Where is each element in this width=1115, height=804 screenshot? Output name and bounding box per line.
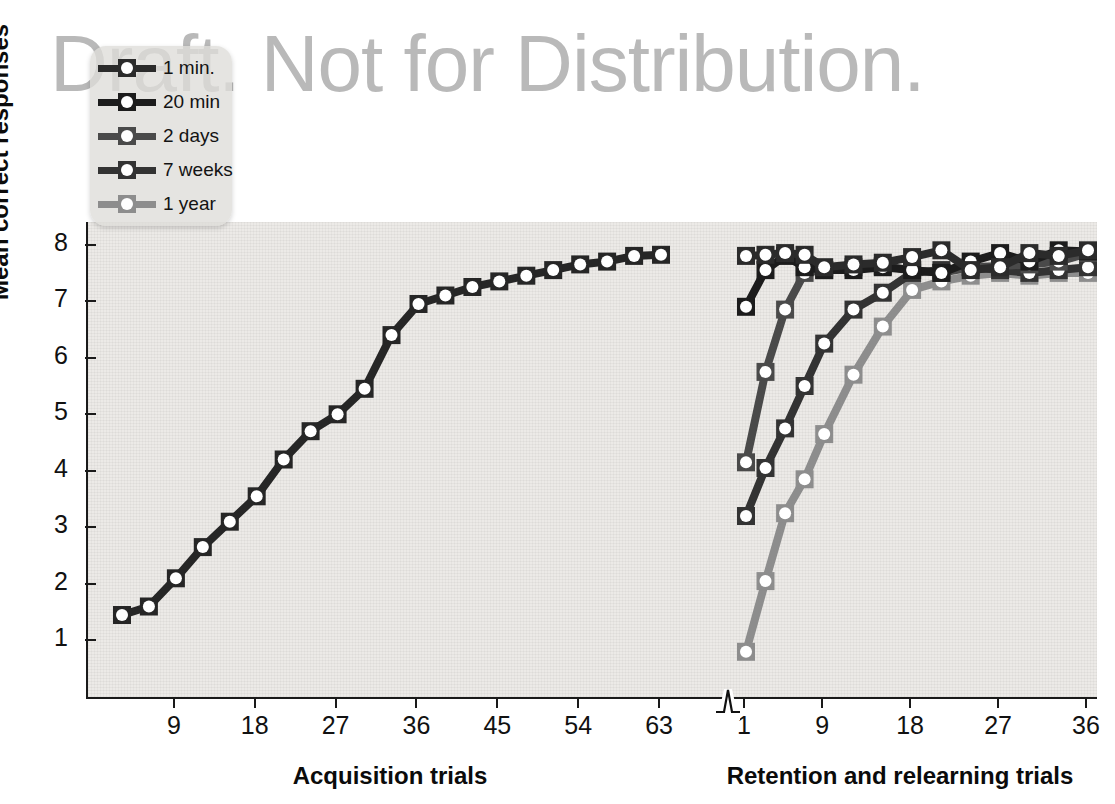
data-point-marker <box>906 284 918 296</box>
legend-swatch-icon <box>98 195 156 213</box>
legend-swatch-icon <box>98 59 156 77</box>
data-point-marker <box>601 256 613 268</box>
figure-root: Draft. Not for Distribution. 12345678 91… <box>0 0 1115 804</box>
data-point-marker <box>547 264 559 276</box>
x-tick-label: 27 <box>968 711 1028 740</box>
data-point-marker <box>779 247 791 259</box>
data-point-marker <box>799 249 811 261</box>
y-tick-label: 6 <box>34 341 68 370</box>
plot-area <box>86 222 1097 699</box>
x-axis-line <box>86 697 714 699</box>
data-point-marker <box>197 541 209 553</box>
x-tick-label: 9 <box>792 711 852 740</box>
data-point-marker <box>818 261 830 273</box>
legend-label: 1 min. <box>163 57 215 79</box>
x-tick-label: 18 <box>225 711 285 740</box>
legend-swatch-icon <box>98 127 156 145</box>
legend-swatch-icon <box>98 161 156 179</box>
data-point-marker <box>359 383 371 395</box>
y-tick-label: 3 <box>34 510 68 539</box>
data-point-marker <box>278 454 290 466</box>
data-point-marker <box>1082 244 1094 256</box>
data-point-marker <box>116 609 128 621</box>
legend-item-20-min[interactable]: 20 min <box>98 89 228 115</box>
data-point-marker <box>848 258 860 270</box>
legend-item-2-days[interactable]: 2 days <box>98 123 228 149</box>
x-tick-label: 45 <box>467 711 527 740</box>
y-tick-mark <box>85 244 96 246</box>
legend-label: 2 days <box>163 125 219 147</box>
data-point-marker <box>1082 261 1094 273</box>
data-point-marker <box>779 304 791 316</box>
x-axis-line <box>734 697 1095 699</box>
data-point-marker <box>760 366 772 378</box>
data-point-marker <box>439 290 451 302</box>
data-point-marker <box>994 261 1006 273</box>
data-point-marker <box>760 462 772 474</box>
data-point-marker <box>935 267 947 279</box>
data-point-marker <box>877 257 889 269</box>
x-axis-label-acquisition: Acquisition trials <box>180 762 600 790</box>
data-point-marker <box>628 250 640 262</box>
data-point-marker <box>1023 247 1035 259</box>
data-point-marker <box>760 249 772 261</box>
data-point-marker <box>906 251 918 263</box>
data-point-marker <box>818 338 830 350</box>
series-line-retention-1-year <box>746 273 1088 652</box>
y-tick-label: 8 <box>34 228 68 257</box>
data-point-marker <box>493 275 505 287</box>
y-tick-label: 7 <box>34 284 68 313</box>
data-point-marker <box>740 510 752 522</box>
data-point-marker <box>799 380 811 392</box>
y-tick-mark <box>85 300 96 302</box>
legend-item-1-min[interactable]: 1 min. <box>98 55 228 81</box>
y-tick-label: 2 <box>34 567 68 596</box>
data-point-marker <box>799 473 811 485</box>
data-point-marker <box>224 516 236 528</box>
data-point-marker <box>779 422 791 434</box>
data-point-marker <box>740 646 752 658</box>
data-point-marker <box>740 301 752 313</box>
y-tick-mark <box>85 470 96 472</box>
data-point-marker <box>520 270 532 282</box>
legend-item-1-year[interactable]: 1 year <box>98 191 228 217</box>
y-tick-mark <box>85 639 96 641</box>
x-tick-label: 9 <box>144 711 204 740</box>
data-point-marker <box>413 298 425 310</box>
legend[interactable]: 1 min.20 min2 days7 weeks1 year <box>90 46 232 226</box>
x-axis-label-retention: Retention and relearning trials <box>690 762 1110 790</box>
y-tick-mark <box>85 413 96 415</box>
data-point-marker <box>877 287 889 299</box>
data-point-marker <box>877 321 889 333</box>
y-tick-mark <box>85 357 96 359</box>
legend-marker-icon <box>121 164 133 176</box>
data-point-marker <box>170 572 182 584</box>
data-point-marker <box>760 575 772 587</box>
data-point-marker <box>994 247 1006 259</box>
data-point-marker <box>848 304 860 316</box>
y-tick-label: 1 <box>34 623 68 652</box>
legend-swatch-icon <box>98 93 156 111</box>
legend-marker-icon <box>121 130 133 142</box>
legend-label: 7 weeks <box>163 159 233 181</box>
legend-item-7-weeks[interactable]: 7 weeks <box>98 157 228 183</box>
x-tick-label: 63 <box>629 711 689 740</box>
chart-lines <box>88 222 1097 697</box>
data-point-marker <box>305 425 317 437</box>
data-point-marker <box>143 601 155 613</box>
y-tick-mark <box>85 526 96 528</box>
data-point-marker <box>818 428 830 440</box>
data-point-marker <box>332 408 344 420</box>
y-tick-mark <box>85 583 96 585</box>
x-tick-label: 36 <box>386 711 446 740</box>
y-tick-label: 5 <box>34 397 68 426</box>
y-tick-label: 4 <box>34 454 68 483</box>
x-tick-label: 27 <box>306 711 366 740</box>
legend-marker-icon <box>121 198 133 210</box>
legend-marker-icon <box>121 96 133 108</box>
x-tick-label: 18 <box>880 711 940 740</box>
data-point-marker <box>251 490 263 502</box>
data-point-marker <box>1053 250 1065 262</box>
data-point-marker <box>655 249 667 261</box>
x-tick-label: 36 <box>1056 711 1115 740</box>
